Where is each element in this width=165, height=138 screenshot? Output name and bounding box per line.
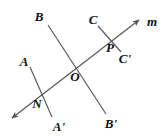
geometry-figure: B C m A P C' O N A' B' [0,0,165,138]
label-point-A-prime: A' [53,120,65,133]
label-point-N: N [32,97,41,110]
label-point-C-prime: C' [119,52,131,65]
label-point-P: P [106,41,114,54]
label-point-A: A [20,55,29,68]
label-point-B-prime: B' [105,117,117,130]
figure-canvas [0,0,165,138]
label-point-O: O [70,70,79,83]
label-point-C: C [89,13,98,26]
label-line-m: m [147,15,157,28]
label-point-B: B [35,10,44,23]
